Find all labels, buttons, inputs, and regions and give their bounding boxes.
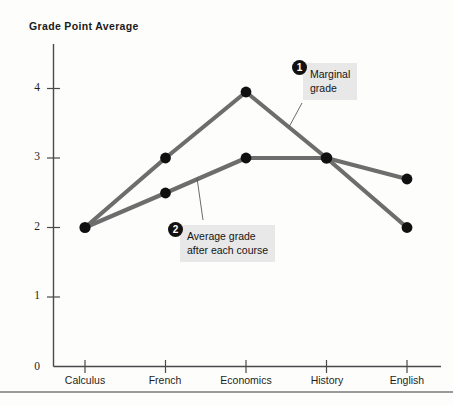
x-tick-label-english: English — [390, 374, 424, 386]
y-tick-label-0: 0 — [24, 360, 40, 372]
series-average-grade-line — [85, 158, 407, 228]
callout-2-badge: 2 — [168, 222, 183, 237]
y-tick-label-1: 1 — [24, 289, 40, 301]
callout-2-box: Average grade after each course — [180, 225, 275, 262]
callout-2-line-1: Average grade — [187, 229, 268, 243]
series-average-grade-markers — [79, 153, 412, 233]
callout-1-line-2: grade — [310, 81, 350, 95]
callout-2-leader-line — [197, 178, 203, 220]
callout-1-line-1: Marginal — [310, 67, 350, 81]
bottom-divider — [0, 391, 453, 393]
y-tick-label-4: 4 — [24, 81, 40, 93]
chart-page: Grade Point Average — [0, 0, 453, 406]
x-tick-label-french: French — [149, 374, 182, 386]
x-tick-label-calculus: Calculus — [65, 374, 105, 386]
x-tick-label-history: History — [311, 374, 344, 386]
x-tick-label-economics: Economics — [220, 374, 271, 386]
callout-1-box: Marginal grade — [303, 63, 357, 100]
y-tick-label-3: 3 — [24, 150, 40, 162]
callout-1-leader-line — [289, 103, 302, 127]
callout-2-line-2: after each course — [187, 243, 268, 257]
callout-1-badge: 1 — [292, 60, 307, 75]
y-tick-label-2: 2 — [24, 220, 40, 232]
line-chart-plot — [0, 0, 453, 406]
